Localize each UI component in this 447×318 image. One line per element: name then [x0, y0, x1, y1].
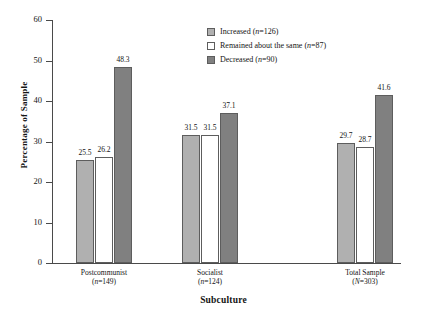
group-label-count: (n=124): [150, 277, 270, 286]
group-label-count: (n=149): [44, 277, 164, 286]
y-tick-label: 20: [14, 177, 42, 186]
legend-label: Increased (n=126): [220, 28, 279, 36]
legend-item: Decreased (n=90): [207, 56, 326, 64]
bar: [356, 147, 374, 263]
bar: [337, 143, 355, 263]
legend-swatch: [207, 42, 215, 50]
group-label-count: (N=303): [305, 277, 425, 286]
bar: [201, 135, 219, 263]
bar: [76, 160, 94, 263]
bar-chart: Percentage of Sample 0102030405060 25.52…: [0, 0, 447, 318]
y-tick-label: 40: [14, 96, 42, 105]
group-label-name: Total Sample: [345, 268, 385, 277]
x-axis-group-label: Postcommunist(n=149): [44, 268, 164, 287]
group-label-name: Socialist: [197, 268, 223, 277]
x-axis-title: Subculture: [0, 295, 447, 305]
x-axis-line: [52, 263, 401, 264]
bar-value-label: 41.6: [369, 84, 399, 92]
y-tick-label: 0: [14, 258, 42, 267]
bar-value-label: 48.3: [108, 56, 138, 64]
legend-swatch: [207, 28, 215, 36]
legend-swatch: [207, 56, 215, 64]
y-tick-label: 50: [14, 56, 42, 65]
bar: [375, 95, 393, 263]
group-label-name: Postcommunist: [81, 268, 127, 277]
x-axis-group-label: Total Sample(N=303): [305, 268, 425, 287]
x-axis-group-label: Socialist(n=124): [150, 268, 270, 287]
y-tick-label: 10: [14, 218, 42, 227]
bar: [220, 113, 238, 263]
bar: [114, 67, 132, 263]
legend: Increased (n=126)Remained about the same…: [207, 28, 326, 70]
y-tick-label: 60: [14, 15, 42, 24]
legend-label: Decreased (n=90): [220, 56, 277, 64]
legend-label: Remained about the same (n=87): [220, 42, 326, 50]
bar: [95, 157, 113, 263]
legend-item: Increased (n=126): [207, 28, 326, 36]
bar-value-label: 37.1: [214, 102, 244, 110]
bar: [182, 135, 200, 263]
y-tick-label: 30: [14, 137, 42, 146]
legend-item: Remained about the same (n=87): [207, 42, 326, 50]
